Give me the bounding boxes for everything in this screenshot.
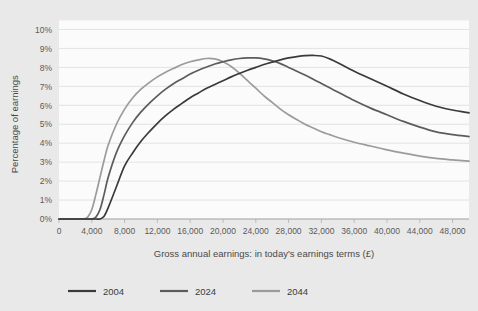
y-tick-label: 3%	[40, 157, 53, 167]
y-tick-label: 0%	[40, 214, 53, 224]
y-tick-label: 2%	[40, 176, 53, 186]
x-tick-label: 8,000	[114, 226, 136, 236]
x-tick-label: 28,000	[276, 226, 302, 236]
x-axis-title: Gross annual earnings: in today's earnin…	[154, 248, 374, 259]
x-axis	[59, 219, 469, 223]
y-tick-label: 7%	[40, 82, 53, 92]
line-chart: 0%1%2%3%4%5%6%7%8%9%10%04,0008,00012,000…	[0, 0, 478, 311]
legend-label-2024: 2024	[195, 286, 216, 297]
chart-container: 0%1%2%3%4%5%6%7%8%9%10%04,0008,00012,000…	[0, 0, 478, 311]
x-tick-label: 4,000	[81, 226, 103, 236]
y-tick-label: 9%	[40, 44, 53, 54]
x-tick-label: 24,000	[243, 226, 269, 236]
plot-area-background	[59, 21, 469, 220]
legend-label-2004: 2004	[103, 286, 124, 297]
x-tick-label: 36,000	[341, 226, 367, 236]
y-tick-label: 1%	[40, 195, 53, 205]
x-tick-label: 12,000	[144, 226, 170, 236]
x-tick-label: 32,000	[308, 226, 334, 236]
y-tick-label: 10%	[35, 25, 52, 35]
x-tick-label: 44,000	[407, 226, 433, 236]
y-tick-label: 4%	[40, 138, 53, 148]
x-tick-label: 20,000	[210, 226, 236, 236]
y-axis-tick-labels: 0%1%2%3%4%5%6%7%8%9%10%	[35, 25, 52, 225]
legend: 200420242044	[68, 286, 308, 297]
y-tick-label: 5%	[40, 119, 53, 129]
x-axis-tick-labels: 04,0008,00012,00016,00020,00024,00028,00…	[57, 226, 466, 236]
y-tick-label: 6%	[40, 101, 53, 111]
x-tick-label: 16,000	[177, 226, 203, 236]
x-tick-label: 40,000	[374, 226, 400, 236]
y-tick-label: 8%	[40, 63, 53, 73]
x-tick-label: 0	[57, 226, 62, 236]
x-tick-label: 48,000	[440, 226, 466, 236]
y-axis-title: Percentage of earnings	[9, 75, 20, 173]
legend-label-2044: 2044	[287, 286, 308, 297]
